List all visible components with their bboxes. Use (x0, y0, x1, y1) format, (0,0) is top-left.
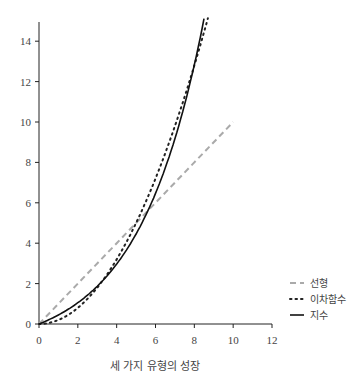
y-tick-label: 8 (26, 156, 32, 168)
legend: 선형이차함수지수 (290, 278, 346, 321)
legend-label: 선형 (310, 278, 328, 289)
y-tick-label: 0 (26, 318, 32, 330)
legend-label: 이차함수 (310, 294, 346, 305)
y-tick-label: 2 (26, 278, 32, 290)
legend-label: 지수 (310, 310, 328, 321)
growth-chart: 02468101214024681012 선형이차함수지수 (0, 0, 364, 390)
x-tick-label: 0 (36, 334, 42, 346)
x-tick-label: 12 (267, 334, 278, 346)
x-tick-label: 4 (114, 334, 120, 346)
y-tick-label: 6 (26, 197, 32, 209)
series-line (39, 18, 208, 324)
y-tick-label: 14 (20, 35, 32, 47)
x-tick-label: 10 (228, 334, 240, 346)
y-tick-label: 4 (26, 237, 32, 249)
chart-caption: 세 가지 유형의 성장 (0, 357, 310, 373)
series-line (39, 122, 233, 324)
series-line (39, 19, 204, 324)
y-tick-label: 12 (20, 76, 31, 88)
x-tick-label: 8 (192, 334, 198, 346)
y-tick-label: 10 (20, 116, 32, 128)
axes: 02468101214024681012 (20, 22, 278, 346)
plot-area (39, 18, 233, 324)
x-tick-label: 6 (153, 334, 159, 346)
x-tick-label: 2 (75, 334, 81, 346)
